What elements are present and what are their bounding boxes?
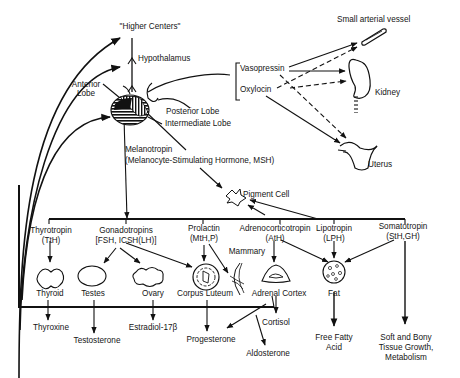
label-free-fatty-acid-1: Free Fatty (315, 333, 352, 343)
label-tropin-abbr: [FSH, ICSH(LH)] (96, 236, 157, 246)
pituitary-gland (111, 95, 149, 125)
label-aldosterone: Aldosterone (246, 349, 290, 359)
label-small-arterial-vessel: Small arterial vessel (337, 15, 410, 25)
label-testosterone: Testosterone (74, 336, 121, 346)
label-pigment-cell: Pigment Cell (243, 190, 289, 200)
diagram-lines (0, 0, 460, 378)
label-tropin-name: Somatotropin (379, 222, 428, 232)
label-soft-bony-2: Tissue Growth, (379, 343, 434, 353)
label-oxytocin: Oxylocin (240, 85, 271, 95)
label-ovary: Ovary (142, 289, 164, 299)
label-mammary: Mammary (229, 247, 265, 257)
label-vasopressin: Vasopressin (240, 64, 284, 74)
label-adrenal-cortex: Adrenal Cortex (252, 289, 307, 299)
label-tropin-name: Adrenocorticotropin (240, 224, 311, 234)
label-tropin-abbr: (MtH,P) (190, 234, 218, 244)
label-thyroid: Thyroid (36, 289, 63, 299)
label-corpus-luteum: Corpus Luteum (177, 289, 233, 299)
label-tropin-abbr: (TtH) (42, 236, 61, 246)
label-thyroxine: Thyroxine (33, 323, 69, 333)
label-uterus: Uterus (368, 160, 392, 170)
label-estradiol: Estradiol-17β (129, 323, 177, 333)
label-cortisol: Cortisol (262, 318, 290, 328)
label-tropin-name: Gonadotropins (99, 226, 153, 236)
label-msh: (Melanocyte-Stimulating Hormone, MSH) (125, 156, 274, 166)
label-anterior-lobe-2: Lobe (77, 89, 95, 99)
label-tropin-name: Lipotropin (316, 224, 352, 234)
label-tropin-abbr: (AtH) (265, 234, 284, 244)
label-tropin-abbr: (StH,GH) (386, 232, 420, 242)
label-fat: Fat (328, 289, 340, 299)
label-melanotropin: Melanotropin (125, 145, 172, 155)
label-soft-bony-1: Soft and Bony (380, 333, 431, 343)
label-tropin-name: Prolactin (188, 224, 220, 234)
label-posterior-lobe: Posterior Lobe (166, 107, 219, 117)
label-hypothalamus: Hypothalamus (138, 54, 190, 64)
label-tropin-name: Thyrotropin (30, 226, 71, 236)
label-soft-bony-3: Metabolism (385, 353, 427, 363)
label-tropin-abbr: (LPH) (323, 234, 344, 244)
label-intermediate-lobe: Intermediate Lobe (165, 119, 231, 129)
label-free-fatty-acid-2: Acid (326, 343, 342, 353)
label-kidney: Kidney (375, 88, 400, 98)
label-higher-centers: "Higher Centers" (120, 22, 181, 32)
label-progesterone: Progesterone (186, 335, 235, 345)
label-testes: Testes (81, 289, 105, 299)
